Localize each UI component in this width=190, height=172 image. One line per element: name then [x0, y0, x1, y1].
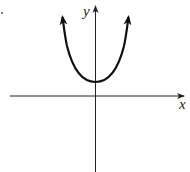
graph-canvas — [0, 0, 190, 172]
stray-mark — [1, 12, 3, 14]
x-axis-label: x — [179, 97, 186, 112]
parabola-graph: y x — [0, 0, 190, 172]
y-axis-label: y — [83, 4, 90, 19]
parabola-curve-left — [63, 17, 96, 82]
parabola-curve-right — [96, 17, 129, 82]
